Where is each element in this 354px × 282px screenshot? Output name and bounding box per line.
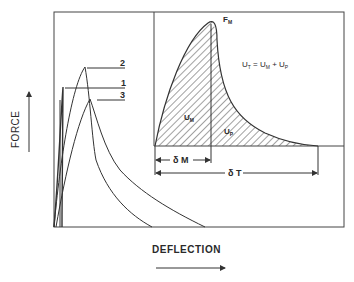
curve-label-3: 3 xyxy=(120,90,125,100)
curve-2 xyxy=(54,67,152,227)
peak-label: FM xyxy=(223,15,232,25)
delta-m-label: δ M xyxy=(173,155,188,165)
force-deflection-diagram: 2 1 3 FM UT = UM + UP UM UP δ M δ T FORC… xyxy=(0,0,354,282)
curve-label-1: 1 xyxy=(121,78,126,88)
curve-1 xyxy=(54,87,63,227)
curve-label-2: 2 xyxy=(120,58,125,68)
delta-t-label: δ T xyxy=(228,168,242,178)
x-axis-label: DEFLECTION xyxy=(152,244,221,255)
energy-equation: UT = UM + UP xyxy=(242,60,289,70)
y-axis-label: FORCE xyxy=(10,111,21,149)
area-um xyxy=(155,22,213,146)
